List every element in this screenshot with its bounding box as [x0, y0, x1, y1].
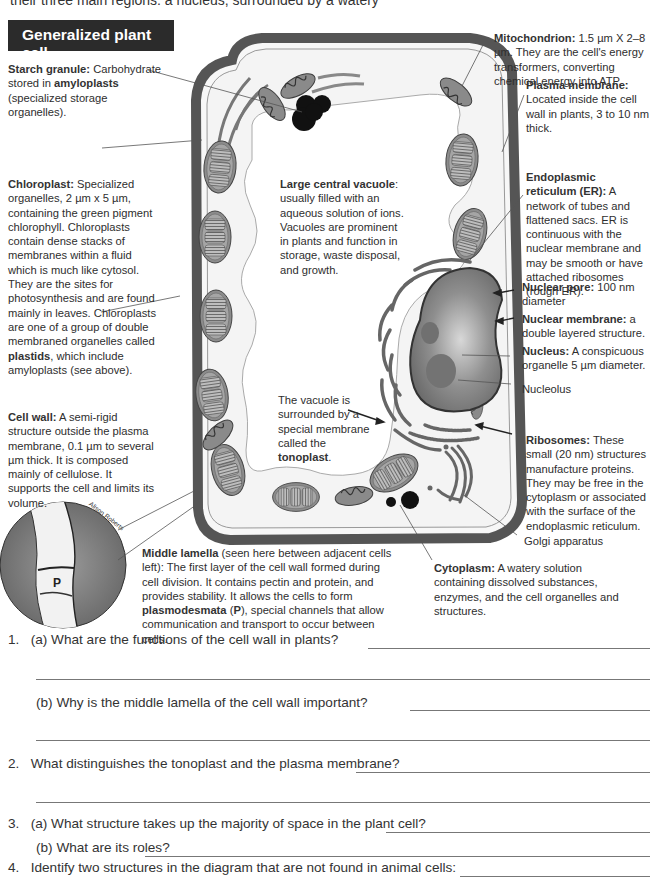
chloroplast-3 — [200, 290, 232, 342]
label-ribosomes: Ribosomes: These small (20 nm) structure… — [526, 433, 650, 533]
nucleolus — [426, 354, 456, 388]
answer-line-3a[interactable] — [386, 832, 650, 833]
answer-line-1a-1[interactable] — [368, 648, 650, 649]
nucleolus-small — [421, 322, 439, 344]
answer-line-2-2[interactable] — [36, 802, 650, 803]
label-cytoplasm: Cytoplasm: A watery solution containing … — [434, 561, 624, 618]
label-cell-wall: Cell wall: A semi-rigid structure outsid… — [8, 410, 156, 510]
label-nucleolus: Nucleolus — [522, 382, 571, 396]
question-2: 2. What distinguishes the tonoplast and … — [8, 756, 399, 771]
label-central-vacuole: Large central vacuole: usually filled wi… — [280, 177, 408, 277]
question-3a: 3. (a) What structure takes up the major… — [8, 816, 426, 831]
plasmodesmata-label: P — [53, 576, 61, 590]
answer-line-3b[interactable] — [145, 856, 650, 857]
question-3b: (b) What are its roles? — [36, 840, 170, 855]
label-nuclear-pore: Nuclear pore: 100 nm diameter — [522, 280, 647, 309]
answer-line-1a-2[interactable] — [36, 679, 650, 680]
answer-line-1b-2[interactable] — [36, 740, 650, 741]
question-4: 4. Identify two structures in the diagra… — [8, 860, 456, 875]
label-golgi-apparatus: Golgi apparatus — [524, 534, 603, 548]
answer-line-2-1[interactable] — [356, 772, 650, 773]
label-chloroplast: Chloroplast: Specialized organelles, 2 µ… — [8, 177, 160, 377]
question-1a: 1. (a) What are the functions of the cel… — [8, 632, 338, 647]
label-nucleus: Nucleus: A conspicuous organelle 5 µm di… — [522, 344, 650, 373]
question-1b: (b) Why is the middle lamella of the cel… — [36, 695, 368, 710]
answer-line-1b-1[interactable] — [410, 710, 650, 711]
label-tonoplast: The vacuole is surrounded by a special m… — [278, 393, 370, 464]
chloroplast-6 — [273, 483, 320, 512]
label-nuclear-membrane: Nuclear membrane: a double layered struc… — [522, 312, 650, 341]
chloroplast-2 — [199, 211, 231, 263]
middle-lamella-micrograph: P Alison Roberts — [0, 500, 126, 640]
label-plasma-membrane: Plasma membrane: Located inside the cell… — [526, 78, 651, 135]
label-starch-granule: Starch granule: Carbohydrate stored in a… — [8, 62, 168, 119]
